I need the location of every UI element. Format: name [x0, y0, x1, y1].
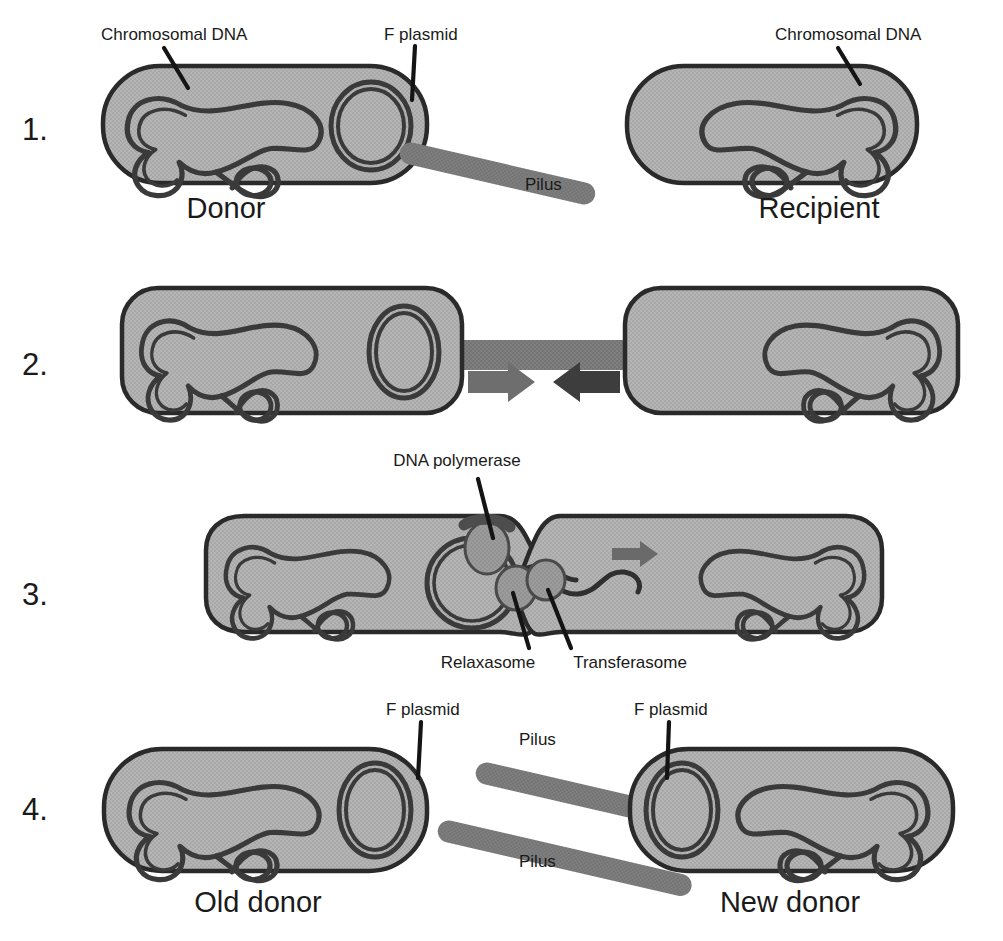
- step-2-group: 2.: [22, 288, 958, 421]
- step4-f-plasmid-label-left: F plasmid: [386, 700, 460, 719]
- step4-f-plasmid-label-right: F plasmid: [634, 700, 708, 719]
- conjugation-diagram: 1. Chromosomal DNA: [0, 0, 1003, 941]
- step1-pilus: [398, 140, 598, 206]
- step3-transferasome-label: Transferasome: [573, 653, 687, 672]
- step4-pilus-label-top: Pilus: [519, 730, 556, 749]
- step-3-number: 3.: [22, 577, 48, 612]
- step-4-group: 4.: [22, 700, 953, 918]
- step1-recipient-caption: Recipient: [759, 192, 880, 224]
- step-3-group: 3.: [22, 451, 882, 672]
- step-1-group: 1. Chromosomal DNA: [22, 25, 922, 224]
- step2-recipient-cell: [625, 288, 958, 413]
- step3-relaxasome-label: Relaxasome: [441, 653, 536, 672]
- step4-old-donor-caption: Old donor: [194, 886, 322, 918]
- step1-chromosomal-dna-label-left: Chromosomal DNA: [101, 25, 248, 44]
- step1-pilus-label: Pilus: [525, 175, 562, 194]
- step1-recipient-cell: [627, 66, 917, 183]
- step2-pilus-bridge: [455, 340, 630, 370]
- step4-pilus-label-bottom: Pilus: [519, 852, 556, 871]
- step4-f-plasmid-leader-left: [418, 722, 421, 778]
- step-2-number: 2.: [22, 347, 48, 382]
- step1-f-plasmid-label: F plasmid: [384, 25, 458, 44]
- step3-transferasome: [527, 560, 565, 600]
- step4-f-plasmid-leader-right: [667, 722, 669, 778]
- step4-new-donor-caption: New donor: [720, 886, 861, 918]
- step3-dna-polymerase: [465, 522, 509, 574]
- step1-donor-caption: Donor: [187, 192, 266, 224]
- step-1-number: 1.: [22, 112, 48, 147]
- step1-chromosomal-dna-label-right: Chromosomal DNA: [775, 25, 922, 44]
- step1-f-plasmid-leader: [412, 46, 415, 100]
- step-4-number: 4.: [22, 792, 48, 827]
- step3-dna-polymerase-label: DNA polymerase: [393, 451, 521, 470]
